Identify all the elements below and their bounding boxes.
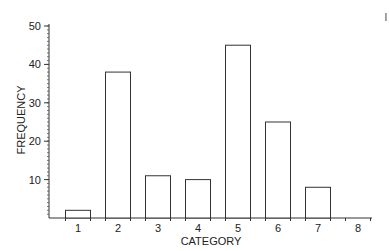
corner-mark: I: [385, 12, 388, 23]
y-axis: 1020304050: [29, 20, 49, 218]
y-axis-title: FREQUENCY: [15, 85, 27, 155]
x-tick-label: 6: [275, 222, 281, 234]
x-tick-label: 3: [155, 222, 161, 234]
bar-category-2: [106, 72, 131, 218]
bar-category-4: [186, 180, 211, 218]
x-axis-title: CATEGORY: [181, 235, 242, 247]
bar-category-3: [146, 176, 171, 218]
y-tick-label: 20: [29, 135, 41, 147]
x-axis: 12345678: [49, 218, 372, 234]
y-tick-label: 30: [29, 97, 41, 109]
x-tick-label: 2: [115, 222, 121, 234]
x-tick-label: 7: [315, 222, 321, 234]
y-tick-label: 50: [29, 20, 41, 32]
bar-category-7: [306, 187, 331, 218]
bar-category-5: [226, 45, 251, 218]
x-tick-label: 4: [195, 222, 201, 234]
bar-chart: 1020304050 12345678 FREQUENCY CATEGORY I: [0, 0, 389, 251]
y-tick-label: 10: [29, 174, 41, 186]
bars: [66, 45, 331, 218]
bar-category-1: [66, 210, 91, 218]
bar-category-6: [266, 122, 291, 218]
x-tick-label: 1: [75, 222, 81, 234]
y-tick-label: 40: [29, 58, 41, 70]
x-tick-label: 5: [235, 222, 241, 234]
x-tick-label: 8: [355, 222, 361, 234]
